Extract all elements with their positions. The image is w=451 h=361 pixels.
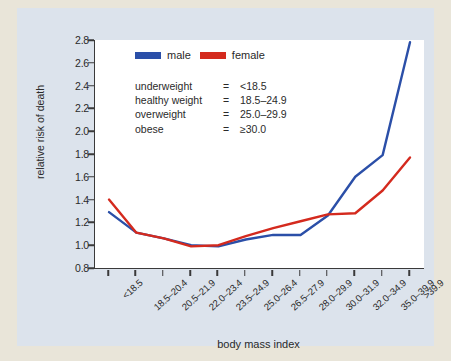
y-axis-tick-label: 2.2	[75, 102, 89, 114]
y-axis-tick-label: 2.6	[75, 57, 89, 69]
y-axis-tick-label: 1.0	[75, 239, 89, 251]
y-axis-tick-label: 1.8	[75, 148, 89, 160]
x-axis-tick-mark	[408, 270, 410, 276]
x-axis-tick-mark	[107, 270, 109, 276]
legend-label: female	[232, 49, 265, 61]
legend-swatch-female	[200, 52, 226, 59]
legend-swatch-male	[135, 52, 161, 59]
y-axis-tick-label: 1.4	[75, 194, 89, 206]
definition-row: underweight=<18.5	[135, 79, 287, 93]
x-axis-tick-mark	[244, 270, 246, 276]
definition-row: overweight=25.0–29.9	[135, 107, 287, 121]
definition-value: 25.0–29.9	[240, 107, 287, 121]
definition-equals: =	[223, 107, 240, 121]
definition-row: healthy weight=18.5–24.9	[135, 93, 287, 107]
definition-term: healthy weight	[135, 93, 223, 107]
x-axis-tick-mark	[135, 270, 137, 276]
definition-equals: =	[223, 79, 240, 93]
x-axis-tick-mark	[217, 270, 219, 276]
series-line-female	[109, 157, 410, 246]
bmi-category-definitions: underweight=<18.5healthy weight=18.5–24.…	[135, 79, 287, 136]
x-axis-tick-label: <18.5	[120, 277, 145, 301]
definition-value: 18.5–24.9	[240, 93, 287, 107]
y-axis-tick-labels: 0.81.01.21.41.61.82.02.22.42.62.8	[61, 40, 89, 268]
definition-term: overweight	[135, 107, 223, 121]
plot-area	[94, 40, 424, 269]
x-axis-tick-mark	[189, 270, 191, 276]
legend-entry-male: male	[135, 49, 191, 61]
x-axis-title: body mass index	[94, 338, 423, 350]
definition-value: ≥30.0	[240, 122, 266, 136]
chart-panel: relative risk of death 0.81.01.21.41.61.…	[17, 8, 434, 346]
series-line-male	[109, 42, 410, 246]
x-axis-tick-mark	[162, 270, 164, 276]
legend-label: male	[167, 49, 191, 61]
x-axis-tick-mark	[354, 270, 356, 276]
series-legend: malefemale	[135, 49, 265, 61]
definition-equals: =	[223, 122, 240, 136]
x-axis-tick-mark	[326, 270, 328, 276]
definition-equals: =	[223, 93, 240, 107]
x-axis-tick-marks	[94, 270, 423, 276]
y-axis-tick-label: 1.6	[75, 171, 89, 183]
figure-container: relative risk of death 0.81.01.21.41.61.…	[0, 0, 451, 361]
x-axis-tick-mark	[381, 270, 383, 276]
y-axis-tick-label: 2.8	[75, 34, 89, 46]
legend-entry-female: female	[200, 49, 265, 61]
y-axis-tick-label: 1.2	[75, 216, 89, 228]
definition-value: <18.5	[240, 79, 267, 93]
definition-term: underweight	[135, 79, 223, 93]
x-axis-tick-mark	[271, 270, 273, 276]
y-axis-tick-label: 2.0	[75, 125, 89, 137]
x-axis-tick-mark	[299, 270, 301, 276]
definition-row: obese=≥30.0	[135, 122, 287, 136]
y-axis-tick-label: 0.8	[75, 262, 89, 274]
definition-term: obese	[135, 122, 223, 136]
series-lines	[95, 40, 424, 268]
y-axis-title: relative risk of death	[34, 77, 46, 187]
x-axis-tick-labels: <18.518.5–20.420.5–21.922.0–23.423.5–24.…	[94, 277, 434, 337]
y-axis-tick-label: 2.4	[75, 80, 89, 92]
